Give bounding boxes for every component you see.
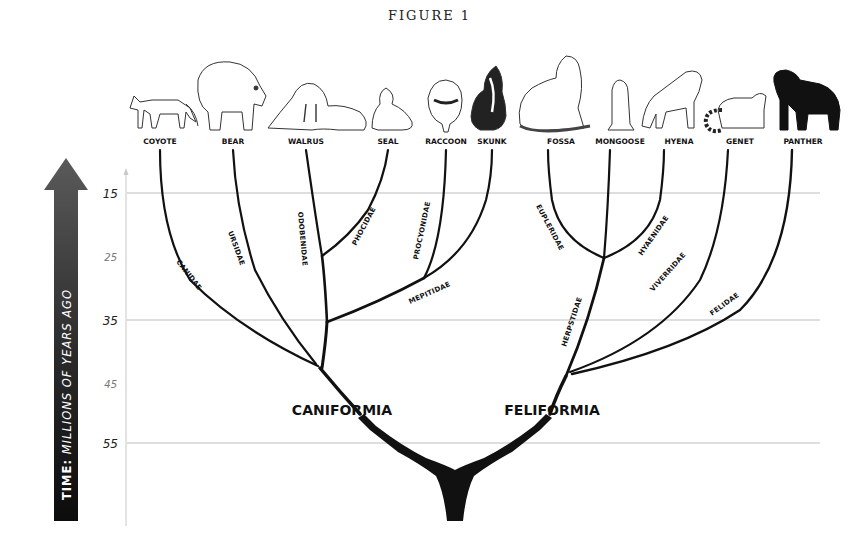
family-canidae: CANIDAE	[174, 258, 203, 292]
skunk-illustration	[471, 66, 506, 130]
walrus-illustration	[268, 83, 366, 130]
coyote-illustration	[130, 96, 198, 128]
panther-illustration	[774, 70, 840, 130]
time-axis-label: TIME: MILLIONS OF YEARS AGO	[60, 289, 74, 500]
family-ursidae: URSIDAE	[226, 230, 246, 267]
tick-25: 25	[104, 252, 117, 263]
raccoon-illustration	[428, 80, 462, 132]
phylogenetic-tree-diagram: TIME: MILLIONS OF YEARS AGO 15 25 35 45 …	[0, 0, 859, 547]
label-skunk: SKUNK	[477, 137, 507, 146]
label-fossa: FOSSA	[547, 137, 575, 146]
label-bear: BEAR	[222, 137, 245, 146]
family-hyaenidae: HYAENIDAE	[637, 214, 670, 257]
tick-45: 45	[104, 379, 117, 390]
label-walrus: WALRUS	[288, 137, 324, 146]
family-eupleridae: EUPLERIDAE	[534, 203, 565, 252]
bear-illustration	[198, 62, 266, 130]
clade-feliformia: FELIFORMIA	[504, 402, 600, 418]
label-genet: GENET	[726, 137, 755, 146]
time-tick-labels: 15 25 35 45 55	[103, 187, 118, 451]
clade-labels: CANIFORMIA FELIFORMIA	[292, 402, 600, 418]
tick-35: 35	[103, 314, 118, 328]
vertical-axis-line	[124, 168, 129, 526]
seal-illustration	[372, 88, 412, 130]
genet-illustration	[706, 93, 766, 131]
hyena-illustration	[642, 71, 702, 128]
label-panther: PANTHER	[783, 137, 822, 146]
fossa-illustration	[519, 56, 590, 131]
clade-caniformia: CANIFORMIA	[292, 402, 392, 418]
family-odobenidae: ODOBENIDAE	[296, 211, 309, 266]
animal-illustrations	[130, 56, 840, 132]
family-viverridae: VIVERRIDAE	[649, 251, 688, 293]
tick-55: 55	[103, 437, 118, 451]
label-mongoose: MONGOOSE	[595, 137, 645, 146]
tree-branches	[160, 150, 792, 521]
family-procyonidae: PROCYONIDAE	[412, 201, 432, 260]
mongoose-illustration	[608, 80, 634, 130]
animal-labels: COYOTE BEAR WALRUS SEAL RACCOON SKUNK FO…	[143, 137, 823, 146]
label-coyote: COYOTE	[143, 137, 176, 146]
tick-15: 15	[103, 187, 118, 201]
label-hyena: HYENA	[665, 137, 694, 146]
label-seal: SEAL	[377, 137, 398, 146]
label-raccoon: RACCOON	[425, 137, 467, 146]
time-axis-arrow: TIME: MILLIONS OF YEARS AGO	[44, 158, 88, 521]
root-trunk-shape	[358, 414, 552, 521]
